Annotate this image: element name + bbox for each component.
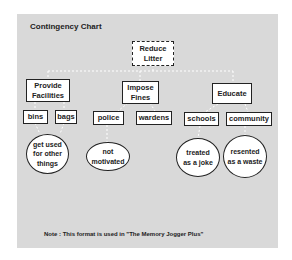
consequence-oval-bins: get used for other things xyxy=(26,134,69,174)
consequence-oval-schools: treated as a joke xyxy=(176,138,220,177)
leaf-node-community: community xyxy=(226,112,272,126)
consequence-oval-community: resented as a waste xyxy=(223,135,267,178)
leaf-node-bins: bins xyxy=(23,110,48,124)
leaf-node-wardens: wardens xyxy=(136,111,172,125)
leaf-node-bags: bags xyxy=(55,110,77,124)
chart-title: Contingency Chart xyxy=(30,22,102,31)
root-node-reduce-litter: Reduce Litter xyxy=(132,41,174,66)
leaf-node-schools: schools xyxy=(184,112,219,126)
branch-node-impose-fines: Impose Fines xyxy=(122,81,159,104)
consequence-oval-police: not motivated xyxy=(86,142,130,171)
branch-node-educate: Educate xyxy=(212,83,252,104)
branch-node-provide-facilities: Provide Facilities xyxy=(26,79,70,102)
footnote: Note : This format is used in "The Memor… xyxy=(44,231,203,237)
connector-lines xyxy=(0,0,292,260)
leaf-node-police: police xyxy=(93,111,124,125)
